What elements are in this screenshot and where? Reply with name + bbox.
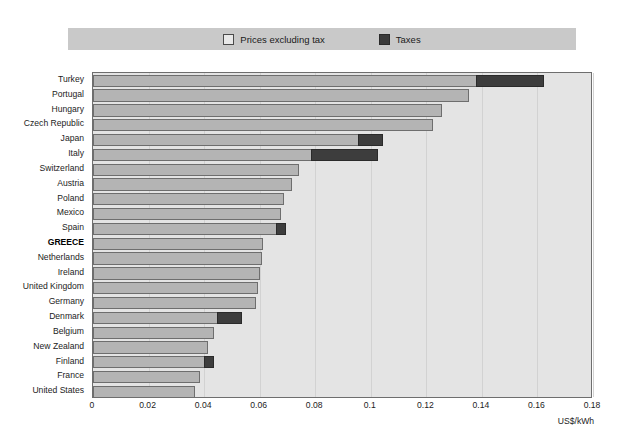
category-label: Belgium <box>53 324 84 340</box>
bar-row <box>93 340 593 356</box>
stacked-bar <box>93 119 433 131</box>
stacked-bar <box>93 386 195 398</box>
bar-segment-prices-excluding-tax <box>93 297 256 309</box>
bar-segment-taxes <box>276 223 286 235</box>
stacked-bar <box>93 75 544 87</box>
legend-swatch-icon-prices-excluding-tax <box>223 34 234 45</box>
stacked-bar <box>93 238 263 250</box>
stacked-bar <box>93 252 262 264</box>
chart-legend: Prices excluding tax Taxes <box>68 28 576 50</box>
bar-segment-prices-excluding-tax <box>93 238 263 250</box>
bar-row <box>93 88 593 104</box>
axis-tick-label: 0.06 <box>250 400 267 410</box>
bar-segment-prices-excluding-tax <box>93 223 276 235</box>
stacked-bar <box>93 164 299 176</box>
bar-segment-prices-excluding-tax <box>93 327 214 339</box>
value-axis-ticks: 00.020.040.060.080.10.120.140.160.18 <box>0 400 624 414</box>
stacked-bar <box>93 356 214 368</box>
gridline <box>593 73 594 397</box>
bar-segment-prices-excluding-tax <box>93 312 217 324</box>
category-label: Poland <box>57 191 84 207</box>
category-label: Hungary <box>52 102 84 118</box>
axis-tick-label: 0.1 <box>364 400 376 410</box>
bar-row <box>93 192 593 208</box>
bar-segment-prices-excluding-tax <box>93 178 292 190</box>
bar-segment-prices-excluding-tax <box>93 75 476 87</box>
bar-row <box>93 206 593 222</box>
bar-segment-taxes <box>476 75 544 87</box>
bar-row <box>93 147 593 163</box>
stacked-bar <box>93 327 214 339</box>
bar-segment-prices-excluding-tax <box>93 208 281 220</box>
bar-row <box>93 177 593 193</box>
bar-row <box>93 295 593 311</box>
bar-row <box>93 236 593 252</box>
axis-unit-label: US$/kWh <box>558 416 594 426</box>
category-label: New Zealand <box>33 339 84 355</box>
bar-row <box>93 251 593 267</box>
category-label: Czech Republic <box>24 116 84 132</box>
axis-tick-label: 0.04 <box>195 400 212 410</box>
category-label: Japan <box>61 131 84 147</box>
axis-tick-label: 0.02 <box>139 400 156 410</box>
axis-tick-label: 0.12 <box>417 400 434 410</box>
bar-segment-prices-excluding-tax <box>93 134 358 146</box>
bar-row <box>93 280 593 296</box>
bar-segment-prices-excluding-tax <box>93 341 208 353</box>
stacked-bar <box>93 104 442 116</box>
bar-segment-prices-excluding-tax <box>93 252 262 264</box>
bar-segment-prices-excluding-tax <box>93 104 442 116</box>
bar-segment-prices-excluding-tax <box>93 149 311 161</box>
plot-area <box>92 72 592 398</box>
category-axis-labels: TurkeyPortugalHungaryCzech RepublicJapan… <box>0 72 88 398</box>
stacked-bar <box>93 297 256 309</box>
axis-tick-label: 0.16 <box>528 400 545 410</box>
category-label: Ireland <box>58 265 84 281</box>
bar-row <box>93 266 593 282</box>
bar-rows <box>93 73 591 397</box>
axis-tick-label: 0.14 <box>473 400 490 410</box>
bar-row <box>93 355 593 371</box>
legend-item-taxes: Taxes <box>379 34 421 45</box>
bar-row <box>93 117 593 133</box>
bar-segment-prices-excluding-tax <box>93 267 260 279</box>
electricity-price-chart: Prices excluding tax Taxes TurkeyPortuga… <box>0 0 624 448</box>
bar-row <box>93 384 593 400</box>
legend-label-prices-excluding-tax: Prices excluding tax <box>240 34 324 45</box>
category-label: Switzerland <box>40 161 84 177</box>
bar-row <box>93 325 593 341</box>
bar-row <box>93 132 593 148</box>
bar-segment-prices-excluding-tax <box>93 282 258 294</box>
stacked-bar <box>93 223 286 235</box>
legend-label-taxes: Taxes <box>396 34 421 45</box>
bar-row <box>93 369 593 385</box>
category-label: Finland <box>56 354 84 370</box>
category-label: Turkey <box>58 72 84 88</box>
category-label: Germany <box>49 294 84 310</box>
bar-segment-prices-excluding-tax <box>93 164 299 176</box>
stacked-bar <box>93 178 292 190</box>
category-label: Mexico <box>57 205 84 221</box>
bar-segment-taxes <box>358 134 383 146</box>
category-label: France <box>57 368 84 384</box>
category-label: United States <box>32 383 84 399</box>
stacked-bar <box>93 193 284 205</box>
stacked-bar <box>93 208 281 220</box>
axis-tick-label: 0.08 <box>306 400 323 410</box>
stacked-bar <box>93 134 383 146</box>
bar-segment-prices-excluding-tax <box>93 89 469 101</box>
legend-item-prices-excluding-tax: Prices excluding tax <box>223 34 324 45</box>
stacked-bar <box>93 282 258 294</box>
bar-segment-prices-excluding-tax <box>93 386 195 398</box>
bar-segment-prices-excluding-tax <box>93 356 204 368</box>
stacked-bar <box>93 371 200 383</box>
bar-segment-prices-excluding-tax <box>93 119 433 131</box>
bar-segment-taxes <box>311 149 378 161</box>
bar-row <box>93 310 593 326</box>
bar-segment-prices-excluding-tax <box>93 371 200 383</box>
axis-tick-label: 0.18 <box>584 400 601 410</box>
axis-tick-label: 0 <box>90 400 95 410</box>
stacked-bar <box>93 312 242 324</box>
category-label: Italy <box>68 146 84 162</box>
bar-row <box>93 73 593 89</box>
